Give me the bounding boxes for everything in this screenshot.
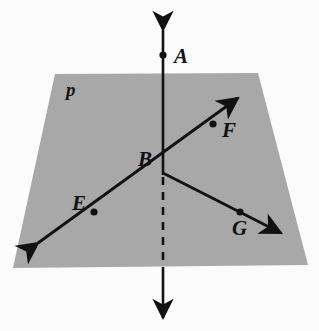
geometry-canvas [0,0,319,331]
point-dot-E [90,208,97,215]
point-label-G: G [232,218,247,239]
point-label-E: E [72,193,86,214]
point-dot-F [209,120,216,127]
plane-p-surface [13,73,308,268]
geometry-figure: p A B E F G [0,0,319,331]
point-label-F: F [222,120,236,141]
point-dot-G [236,208,243,215]
point-dot-A [159,51,166,58]
point-label-B: B [138,149,152,170]
plane-label-p: p [66,80,76,99]
point-label-A: A [174,46,188,67]
